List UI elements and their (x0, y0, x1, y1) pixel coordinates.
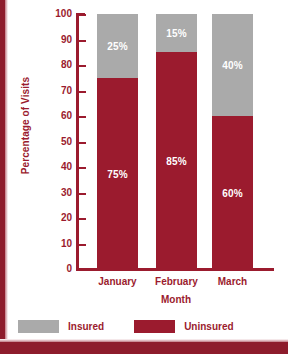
y-tick-label-20: 20 (44, 213, 72, 223)
y-tick-label-50: 50 (44, 137, 72, 147)
chart-figure: Percentage of Visits 100 90 80 70 60 50 … (0, 0, 288, 354)
page-frame-bottom-fade (0, 339, 288, 342)
y-tick-label-10: 10 (44, 239, 72, 249)
y-tick-label-100: 100 (44, 9, 72, 19)
bar-february-insured-label: 15% (166, 28, 187, 39)
x-axis-title: Month (78, 294, 274, 305)
legend-label-insured: Insured (68, 321, 104, 332)
y-tick-label-70: 70 (44, 86, 72, 96)
bar-january-insured-label: 25% (107, 41, 128, 52)
plot-area: 25% 75% 15% 85% 40% 60% (78, 14, 274, 270)
x-tick-label-march: March (192, 276, 273, 287)
legend-item-insured[interactable]: Insured (18, 320, 104, 333)
bar-february[interactable]: 15% 85% (156, 14, 197, 270)
bar-march-uninsured-segment[interactable]: 60% (212, 116, 253, 270)
y-tick-label-0: 0 (44, 264, 72, 274)
y-tick-label-90: 90 (44, 35, 72, 45)
legend-swatch-uninsured-icon (134, 320, 175, 333)
bar-february-insured-segment[interactable]: 15% (156, 14, 197, 52)
bar-february-uninsured-label: 85% (166, 156, 187, 167)
legend-label-uninsured: Uninsured (184, 321, 233, 332)
bar-january-insured-segment[interactable]: 25% (97, 14, 138, 78)
bar-january[interactable]: 25% 75% (97, 14, 138, 270)
legend-swatch-insured-icon (18, 320, 59, 333)
y-tick-label-80: 80 (44, 60, 72, 70)
bar-january-uninsured-label: 75% (107, 169, 128, 180)
bar-march-insured-segment[interactable]: 40% (212, 14, 253, 116)
bar-february-uninsured-segment[interactable]: 85% (156, 52, 197, 270)
bar-march-uninsured-label: 60% (222, 188, 243, 199)
y-tick-label-30: 30 (44, 188, 72, 198)
bar-january-uninsured-segment[interactable]: 75% (97, 78, 138, 270)
y-axis-title: Percentage of Visits (20, 71, 31, 181)
bar-march-insured-label: 40% (222, 60, 243, 71)
page-frame-bottom-stripe (0, 342, 288, 354)
bar-march[interactable]: 40% 60% (212, 14, 253, 270)
y-tick-label-40: 40 (44, 162, 72, 172)
x-axis-spine (76, 268, 274, 271)
y-tick-label-60: 60 (44, 111, 72, 121)
page-frame-left-fade (5, 0, 8, 354)
chart-legend: Insured Uninsured (18, 320, 270, 333)
legend-item-uninsured[interactable]: Uninsured (134, 320, 233, 333)
